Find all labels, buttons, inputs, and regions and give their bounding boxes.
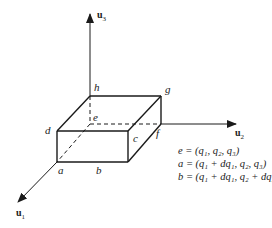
equation-a: a = (q₁ + dq₁, q₂, q₃) [178,159,266,170]
vertex-f-label: f [156,128,159,139]
u3-label: u3 [97,10,106,23]
vertex-g-label: g [165,84,171,95]
edge-d-h [57,96,90,131]
edge-c-g [128,96,161,131]
edge-e-a-hidden [57,124,90,162]
vertex-h-label: h [94,82,100,93]
vertex-d-label: d [45,125,51,136]
equation-e: e = (q₁, q₂, q₃) [178,146,239,157]
u2-label: u2 [235,128,244,141]
vertex-b-label: b [96,165,102,176]
u1-label: u1 [16,208,25,221]
equation-b: b = (q₁ + dq₁, q₂ + dq₂, q₃) [178,172,272,183]
vertex-a-label: a [58,165,64,176]
vertex-c-label: c [133,133,138,144]
volume-element-diagram [0,0,272,228]
u1-axis [18,162,57,202]
vertex-e-label: e [93,112,98,123]
